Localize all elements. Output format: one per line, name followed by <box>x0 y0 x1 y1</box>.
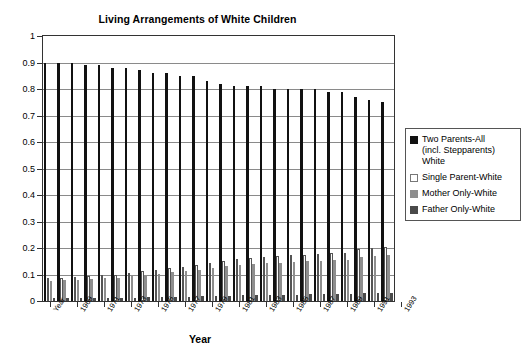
bar-group <box>70 36 84 301</box>
bar-group <box>300 36 314 301</box>
y-axis: 10.90.80.70.60.50.40.30.20.10 <box>0 35 40 302</box>
bar-group <box>57 36 71 301</box>
x-tick-mark <box>77 302 78 307</box>
x-axis-title: Year <box>150 333 250 345</box>
bar <box>350 294 353 301</box>
bar <box>161 297 164 301</box>
y-tick-label: 1 <box>30 32 35 41</box>
y-tick-label: 0.3 <box>22 217 35 226</box>
y-tick-label: 0.1 <box>22 270 35 279</box>
x-tick-label: 1993 <box>403 295 419 313</box>
legend-item[interactable]: Two Parents-All (incl. Stepparents) Whit… <box>410 134 517 167</box>
bar-group <box>286 36 300 301</box>
bar <box>98 65 101 301</box>
bar-group <box>340 36 354 301</box>
bar <box>107 298 110 301</box>
legend-swatch-icon <box>410 174 418 182</box>
bar <box>188 297 191 302</box>
bar-group <box>178 36 192 301</box>
legend-item-label: Single Parent-White <box>422 172 502 183</box>
bar-group <box>259 36 273 301</box>
bar <box>377 293 380 301</box>
x-tick-mark <box>104 302 105 307</box>
chart-legend: Two Parents-All (incl. Stepparents) Whit… <box>405 128 521 221</box>
x-tick-mark <box>185 302 186 307</box>
bar <box>323 294 326 301</box>
bar-group <box>124 36 138 301</box>
x-tick-mark <box>320 302 321 307</box>
bar-group <box>205 36 219 301</box>
y-tick-label: 0.2 <box>22 244 35 253</box>
y-tick-label: 0.6 <box>22 138 35 147</box>
bar-group <box>232 36 246 301</box>
legend-item[interactable]: Single Parent-White <box>410 172 517 183</box>
bar-group <box>84 36 98 301</box>
bar-group <box>97 36 111 301</box>
bar-group <box>246 36 260 301</box>
x-tick-mark <box>293 302 294 307</box>
bar-group <box>273 36 287 301</box>
bar <box>152 73 155 301</box>
x-tick-mark <box>158 302 159 307</box>
bar <box>134 298 137 301</box>
x-tick-mark <box>131 302 132 307</box>
bar <box>215 296 218 301</box>
bar-group <box>138 36 152 301</box>
legend-item[interactable]: Mother Only-White <box>410 188 517 199</box>
x-tick-mark <box>239 302 240 307</box>
x-tick-mark <box>50 302 51 307</box>
x-axis: Year196919711973197519771979198119831985… <box>42 302 395 356</box>
bar-group <box>313 36 327 301</box>
bar-group <box>43 36 57 301</box>
bar <box>165 73 168 301</box>
legend-item-label: Mother Only-White <box>422 188 497 199</box>
bar <box>138 70 141 301</box>
legend-swatch-icon <box>410 190 418 198</box>
chart-container: Living Arrangements of White Children 10… <box>0 0 525 356</box>
y-tick-label: 0.7 <box>22 111 35 120</box>
x-tick-mark <box>347 302 348 307</box>
x-tick-mark <box>212 302 213 307</box>
legend-item-label: Father Only-White <box>422 204 495 215</box>
bar <box>269 295 272 301</box>
bar <box>125 68 128 301</box>
bar-group <box>192 36 206 301</box>
bar <box>111 68 114 301</box>
bar-group <box>327 36 341 301</box>
legend-swatch-icon <box>410 206 418 214</box>
y-tick-label: 0.4 <box>22 191 35 200</box>
bar <box>242 295 245 301</box>
bar-group <box>367 36 381 301</box>
y-tick-label: 0.5 <box>22 164 35 173</box>
bar <box>296 295 299 301</box>
bar <box>71 63 74 302</box>
bar-group <box>151 36 165 301</box>
legend-item-label: Two Parents-All (incl. Stepparents) Whit… <box>422 134 495 167</box>
y-tick-label: 0.9 <box>22 58 35 67</box>
bar-group <box>381 36 395 301</box>
legend-swatch-icon <box>410 136 418 144</box>
bar <box>57 63 60 302</box>
x-tick-mark <box>401 302 402 307</box>
bar-group <box>354 36 368 301</box>
x-tick-mark <box>266 302 267 307</box>
y-tick-label: 0 <box>30 297 35 306</box>
bar-group <box>165 36 179 301</box>
y-tick-label: 0.8 <box>22 85 35 94</box>
legend-item[interactable]: Father Only-White <box>410 204 517 215</box>
bar-group <box>111 36 125 301</box>
x-tick-mark <box>374 302 375 307</box>
bar <box>84 65 87 301</box>
bar <box>44 63 47 302</box>
chart-title: Living Arrangements of White Children <box>0 13 395 25</box>
bar-group <box>219 36 233 301</box>
bars-layer <box>43 36 394 301</box>
